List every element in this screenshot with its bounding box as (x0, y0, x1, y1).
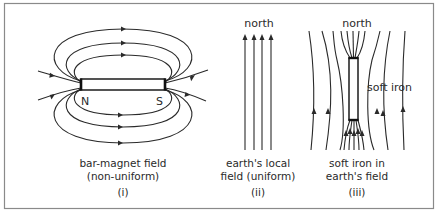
field-line (353, 31, 354, 58)
arrow-icon (352, 130, 357, 136)
arrow-icon (121, 41, 126, 46)
arrow-icon (118, 125, 123, 130)
panel-iii-caption-line1: soft iron in (329, 157, 385, 169)
arrow-icon (260, 34, 265, 40)
north-pole-label: N (81, 95, 89, 108)
panel-ii-caption-line1: earth's local (226, 157, 290, 169)
field-line (349, 120, 352, 150)
soft-iron-bar (349, 58, 358, 120)
arrow-icon (252, 34, 257, 40)
arrow-icon (118, 113, 123, 118)
panel-iii-numeral: (iii) (349, 186, 366, 198)
arrow-icon (312, 108, 317, 114)
field-line (333, 31, 343, 150)
field-line (355, 31, 359, 58)
panel-i-caption-line1: bar-magnet field (79, 157, 166, 169)
arrow-icon (344, 130, 349, 136)
panel-ii-caption-line2: field (uniform) (221, 170, 296, 182)
panel-earth-field: north earth's local field (uniform) (ii) (221, 17, 296, 198)
panel-ii-north-label: north (244, 17, 274, 30)
field-line (66, 43, 180, 81)
panel-iii-caption-line2: earth's field (326, 170, 388, 182)
arrow-icon (121, 27, 126, 32)
soft-iron-label: soft iron (367, 81, 412, 94)
arrow-icon (121, 53, 126, 58)
field-line (309, 31, 314, 150)
south-pole-label: S (156, 95, 163, 108)
panel-iii-north-label: north (342, 17, 372, 30)
panel-i-caption-line2: (non-uniform) (87, 170, 159, 182)
arrow-icon (50, 94, 55, 100)
panel-soft-iron: north (309, 17, 412, 198)
arrow-icon (243, 34, 248, 40)
arrow-icon (401, 106, 406, 112)
arrow-icon (269, 34, 274, 40)
arrow-icon (375, 108, 380, 114)
panel-bar-magnet: N S bar-magnet field (non-uniform) (i) (38, 27, 208, 199)
field-line (74, 55, 171, 82)
field-line (322, 31, 331, 150)
arrow-icon (118, 141, 123, 146)
arrow-icon (348, 128, 353, 134)
magnetic-field-figure: N S bar-magnet field (non-uniform) (i) n… (0, 0, 437, 215)
bar-magnet (81, 79, 165, 90)
field-line (356, 120, 359, 150)
panel-ii-numeral: (ii) (251, 186, 265, 198)
panel-i-numeral: (i) (117, 186, 128, 198)
